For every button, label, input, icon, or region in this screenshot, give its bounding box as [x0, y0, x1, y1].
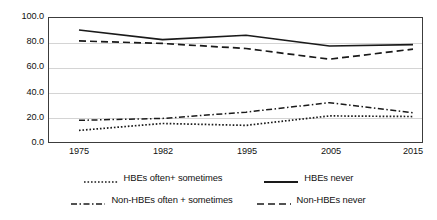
y-axis-tick-20: 20.0 — [0, 113, 44, 122]
legend-key-dashdot-icon — [71, 195, 105, 205]
y-axis-tick-40: 40.0 — [0, 88, 44, 97]
legend-label-hbes-never: HBEs never — [304, 173, 353, 183]
x-axis: 1975 1982 1995 2005 2015 — [48, 147, 423, 163]
legend-item-non-hbes-never[interactable]: Non-HBEs never — [257, 195, 366, 205]
legend-row-2: Non-HBEs often + sometimes Non-HBEs neve… — [0, 190, 437, 210]
y-axis-tick-60: 60.0 — [0, 62, 44, 71]
chart-legend: HBEs often+ sometimes HBEs never Non-HB — [0, 166, 437, 216]
legend-item-hbes-often-sometimes[interactable]: HBEs often+ sometimes — [84, 173, 223, 183]
y-axis: 100.0 80.0 60.0 40.0 20.0 0.0 — [0, 0, 44, 160]
line-chart: 100.0 80.0 60.0 40.0 20.0 0.0 1975 1982 … — [0, 0, 437, 220]
series-line-hbes-never — [79, 30, 413, 46]
legend-item-hbes-never[interactable]: HBEs never — [264, 173, 353, 183]
legend-key-solid-icon — [264, 173, 298, 183]
legend-label-hbes-often-sometimes: HBEs often+ sometimes — [124, 173, 223, 183]
x-axis-tick-1995: 1995 — [237, 147, 257, 156]
x-axis-tick-2015: 2015 — [403, 147, 423, 156]
x-axis-tick-1982: 1982 — [153, 147, 173, 156]
series-line-non-hbes-often-sometimes — [79, 103, 413, 121]
legend-label-non-hbes-never: Non-HBEs never — [297, 195, 366, 205]
x-axis-tick-2005: 2005 — [321, 147, 341, 156]
series-line-hbes-often-sometimes — [79, 116, 413, 130]
legend-row-1: HBEs often+ sometimes HBEs never — [0, 168, 437, 188]
series-layer — [48, 17, 423, 143]
series-line-non-hbes-never — [79, 41, 413, 59]
y-axis-tick-100: 100.0 — [0, 12, 44, 21]
legend-item-non-hbes-often-sometimes[interactable]: Non-HBEs often + sometimes — [71, 195, 232, 205]
legend-key-dotted-icon — [84, 173, 118, 183]
legend-label-non-hbes-often-sometimes: Non-HBEs often + sometimes — [111, 195, 232, 205]
legend-key-dashed-icon — [257, 195, 291, 205]
x-axis-tick-1975: 1975 — [69, 147, 89, 156]
y-axis-tick-80: 80.0 — [0, 37, 44, 46]
y-axis-tick-0: 0.0 — [0, 138, 44, 147]
